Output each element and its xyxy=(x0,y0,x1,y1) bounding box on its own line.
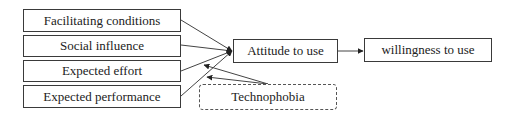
node-label: Facilitating conditions xyxy=(44,13,161,29)
node-expected-performance: Expected performance xyxy=(23,85,181,108)
node-attitude-to-use: Attitude to use xyxy=(233,39,338,63)
edge-technophobia-effort xyxy=(204,65,268,84)
node-willingness-to-use: willingness to use xyxy=(364,38,492,62)
node-label: Expected performance xyxy=(43,89,160,105)
node-label: Technophobia xyxy=(231,89,304,105)
edge-effort-attitude xyxy=(181,51,232,71)
node-facilitating-conditions: Facilitating conditions xyxy=(23,9,181,32)
node-expected-effort: Expected effort xyxy=(23,60,181,82)
node-technophobia: Technophobia xyxy=(199,84,337,110)
node-label: Social influence xyxy=(60,38,144,54)
node-label: willingness to use xyxy=(381,42,474,58)
node-social-influence: Social influence xyxy=(23,35,181,57)
node-label: Attitude to use xyxy=(247,43,324,59)
node-label: Expected effort xyxy=(62,63,142,79)
edge-technophobia-performance xyxy=(207,77,268,84)
